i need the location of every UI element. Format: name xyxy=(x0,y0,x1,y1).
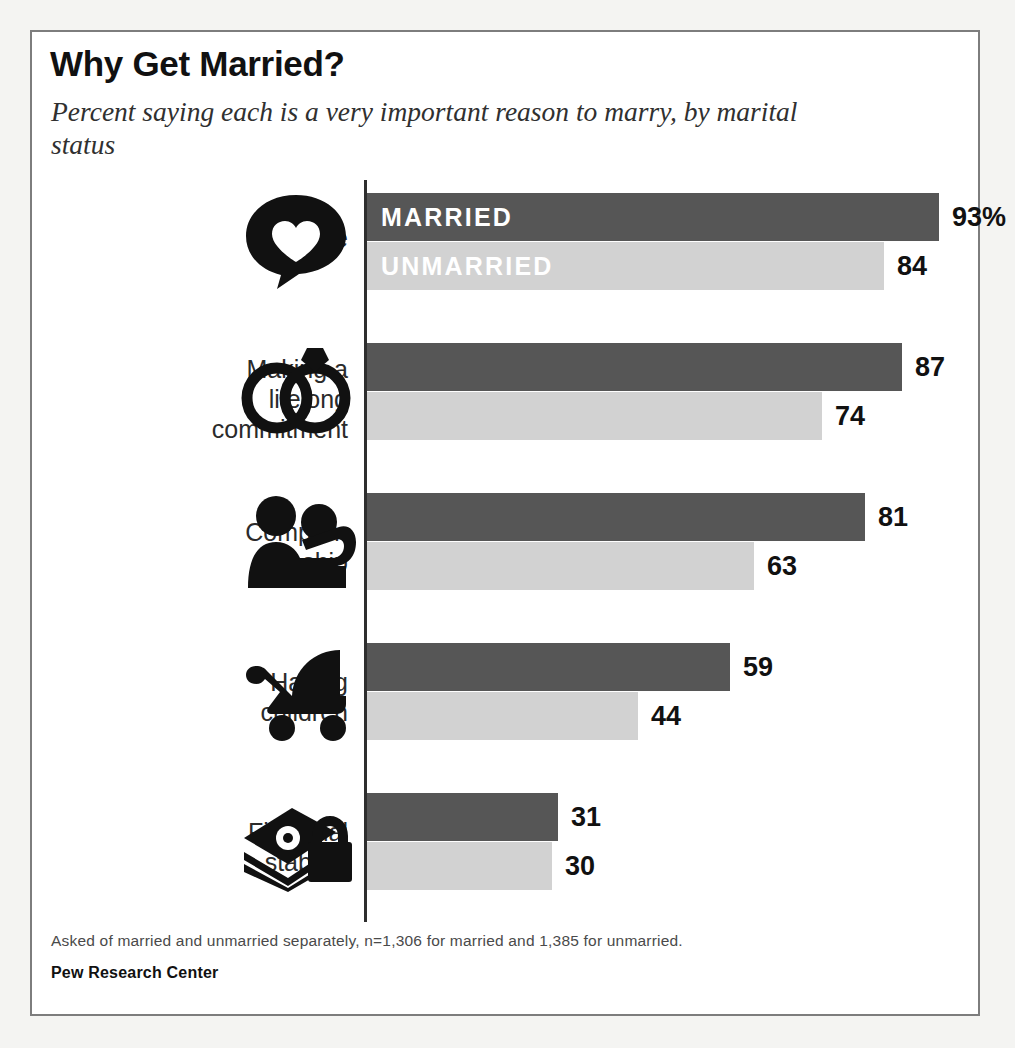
bar-group-companionship: Compan- ionship 81 63 xyxy=(32,487,978,597)
bar-married-financial-stability xyxy=(367,793,558,841)
value-label-married-companionship: 81 xyxy=(878,502,908,533)
value-label-married-love: 93% xyxy=(952,202,1006,233)
bar-unmarried-love: UNMARRIED xyxy=(367,242,884,290)
legend-label-married: MARRIED xyxy=(381,203,513,232)
value-label-unmarried-having-children: 44 xyxy=(651,701,681,732)
bar-group-love: Love MARRIED 93% UNMARRIED 84 xyxy=(32,187,978,297)
source-attribution: Pew Research Center xyxy=(51,964,218,982)
bar-unmarried-lifelong-commitment xyxy=(367,392,822,440)
bar-married-lifelong-commitment xyxy=(367,343,902,391)
value-label-unmarried-companionship: 63 xyxy=(767,551,797,582)
bar-group-having-children: Having children 59 44 xyxy=(32,637,978,747)
heart-speech-bubble-icon xyxy=(232,187,360,297)
screenshot-canvas: Why Get Married? Percent saying each is … xyxy=(0,0,1015,1048)
bar-married-having-children xyxy=(367,643,730,691)
value-label-married-lifelong-commitment: 87 xyxy=(915,352,945,383)
bar-married-companionship xyxy=(367,493,865,541)
bar-chart-plot-area: Love MARRIED 93% UNMARRIED 84 xyxy=(32,32,978,1014)
value-label-married-having-children: 59 xyxy=(743,652,773,683)
value-label-unmarried-financial-stability: 30 xyxy=(565,851,595,882)
infographic-card: Why Get Married? Percent saying each is … xyxy=(30,30,980,1016)
wedding-rings-icon xyxy=(232,337,360,447)
bar-group-lifelong-commitment: Making a lifelong commitment 87 74 xyxy=(32,337,978,447)
bar-group-financial-stability: Financial stability 31 xyxy=(32,787,978,897)
money-with-lock-icon xyxy=(232,787,360,897)
value-label-married-financial-stability: 31 xyxy=(571,802,601,833)
value-label-unmarried-love: 84 xyxy=(897,251,927,282)
bar-unmarried-financial-stability xyxy=(367,842,552,890)
baby-stroller-icon xyxy=(232,637,360,747)
two-people-embracing-icon xyxy=(232,487,360,597)
bar-unmarried-having-children xyxy=(367,692,638,740)
legend-label-unmarried: UNMARRIED xyxy=(381,252,554,281)
bar-married-love: MARRIED xyxy=(367,193,939,241)
chart-footnote: Asked of married and unmarried separatel… xyxy=(51,932,683,950)
value-label-unmarried-lifelong-commitment: 74 xyxy=(835,401,865,432)
bar-unmarried-companionship xyxy=(367,542,754,590)
